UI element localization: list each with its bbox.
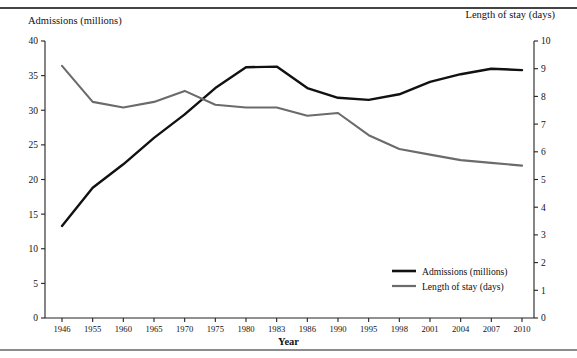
x-axis-tick-label: 1990 [329,324,346,334]
x-axis-tick-label: 2001 [421,324,438,334]
left-axis-tick-label: 10 [29,244,39,254]
right-axis-tick-label: 4 [541,203,546,213]
x-axis-tick-label: 1998 [391,324,408,334]
right-axis-tick-label: 1 [541,286,546,296]
x-axis-tick-label: 1995 [360,324,377,334]
left-axis-tick-label: 25 [29,140,39,150]
left-axis-tick-label: 0 [33,313,38,323]
right-axis-tick-label: 7 [541,120,546,130]
x-axis-tick-label: 1986 [299,324,317,334]
chart-plot-area: 0510152025303540012345678910194619551960… [0,0,577,358]
left-axis-tick-label: 40 [29,36,39,46]
series-line-1 [62,67,522,226]
left-axis-tick-label: 5 [33,279,38,289]
x-axis-tick-label: 1960 [115,324,132,334]
x-axis-tick-label: 2004 [452,324,470,334]
x-axis-tick-label: 1980 [237,324,254,334]
legend-label-2: Length of stay (days) [422,281,504,293]
series-line-2 [62,66,522,166]
x-axis-tick-label: 1983 [268,324,285,334]
x-axis-tick-label: 1970 [176,324,193,334]
right-axis-tick-label: 3 [541,230,546,240]
right-axis-tick-label: 9 [541,64,546,74]
x-axis-tick-label: 2007 [483,324,501,334]
legend-label-1: Admissions (millions) [422,266,508,278]
x-axis-tick-label: 1946 [53,324,71,334]
x-axis-tick-label: 1955 [84,324,101,334]
x-axis-tick-label: 2010 [513,324,530,334]
right-axis-tick-label: 10 [541,36,551,46]
right-axis-tick-label: 6 [541,147,546,157]
left-axis-tick-label: 20 [29,175,39,185]
right-axis-tick-label: 5 [541,175,546,185]
right-axis-tick-label: 8 [541,92,546,102]
left-axis-tick-label: 15 [29,210,39,220]
right-axis-tick-label: 2 [541,258,546,268]
bottom-rule [0,349,577,351]
x-axis-tick-label: 1975 [207,324,224,334]
right-axis-tick-label: 0 [541,313,546,323]
left-axis-tick-label: 35 [29,71,39,81]
x-axis-title: Year [0,336,577,347]
figure: Admissions (millions) Length of stay (da… [0,0,577,358]
left-axis-tick-label: 30 [29,106,39,116]
x-axis-tick-label: 1965 [145,324,162,334]
